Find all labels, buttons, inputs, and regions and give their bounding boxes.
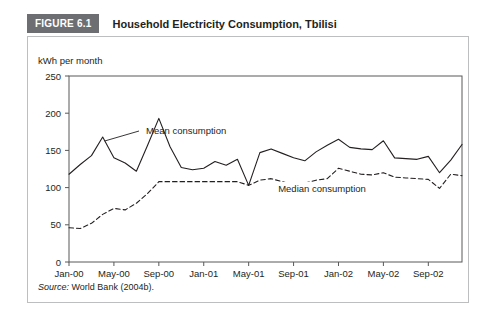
source-label: Source: [38,282,69,292]
x-axis-tick-label: Jan-00 [54,268,83,279]
chart-plot: 050100150200250Jan-00May-00Sep-00Jan-01M… [0,0,497,325]
median-consumption-line [69,168,462,228]
x-axis-tick-label: Jan-01 [189,268,218,279]
x-axis-tick-label: May-00 [98,268,130,279]
y-axis-tick-label: 150 [45,145,61,156]
x-axis-tick-label: Sep-01 [278,268,309,279]
y-axis-tick-label: 50 [50,219,61,230]
source-note: Source: World Bank (2004b). [38,282,154,292]
y-axis-tick-label: 100 [45,182,61,193]
x-axis-tick-label: May-02 [368,268,400,279]
y-axis-tick-label: 200 [45,108,61,119]
x-axis-tick-label: Sep-02 [413,268,444,279]
plot-frame [69,76,462,262]
median-consumption-label: Median consumption [278,183,366,194]
figure-root: FIGURE 6.1 Household Electricity Consump… [0,0,497,325]
x-axis-tick-label: Jan-02 [324,268,353,279]
y-axis-tick-label: 250 [45,71,61,82]
y-axis-tick-label: 0 [56,257,61,268]
mean-consumption-label: Mean consumption [146,125,226,136]
source-text: World Bank (2004b). [69,282,154,292]
mean-consumption-line [69,118,462,185]
x-axis-tick-label: Sep-00 [144,268,175,279]
x-axis-tick-label: May-01 [233,268,265,279]
mean-annotation-leader [105,131,139,141]
